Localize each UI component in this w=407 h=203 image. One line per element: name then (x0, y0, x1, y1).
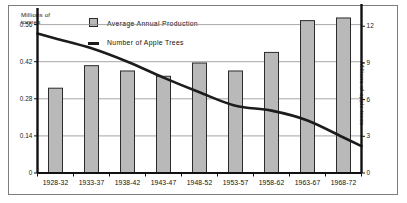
right-tick-label: 3 (367, 132, 371, 139)
x-tick-label: 1953-57 (218, 179, 254, 186)
x-tick-label: 1933-37 (74, 179, 110, 186)
chart-figure: Millions oftonnes Millions of apple tree… (0, 0, 407, 203)
x-tick-label: 1958-62 (254, 179, 290, 186)
x-tick-label: 1963-67 (290, 179, 326, 186)
bar (301, 21, 315, 173)
bar (157, 76, 171, 173)
bar (121, 71, 135, 173)
bar (85, 66, 99, 173)
right-tick-label: 12 (367, 22, 374, 29)
x-tick-label: 1968-72 (326, 179, 362, 186)
x-tick-label: 1938-42 (110, 179, 146, 186)
x-tick-label: 1948-52 (182, 179, 218, 186)
x-tick-label: 1943-47 (146, 179, 182, 186)
right-tick-label: 9 (367, 59, 371, 66)
right-tick-label: 0 (367, 169, 371, 176)
left-tick-label: 0.14 (0, 132, 33, 139)
left-tick-label: 0.42 (0, 58, 33, 65)
left-tick-label: 0.28 (0, 95, 33, 102)
chart-plot (0, 0, 407, 203)
bar-series (49, 18, 351, 173)
x-tick-label: 1928-32 (38, 179, 74, 186)
bar (337, 18, 351, 173)
right-tick-label: 6 (367, 96, 371, 103)
bar (229, 71, 243, 173)
left-tick-label: 0 (0, 169, 33, 176)
bar (49, 88, 63, 173)
left-tick-label: 0.56 (0, 21, 33, 28)
bar (193, 63, 207, 173)
